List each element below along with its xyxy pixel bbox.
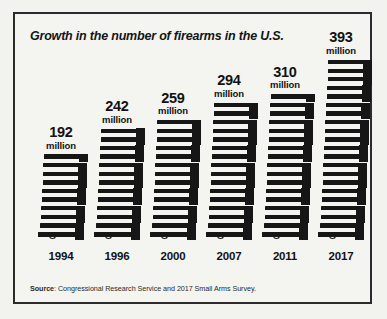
pistol-icon [326,68,372,77]
pistol-icon [99,137,145,146]
value-number: 310 [259,65,311,80]
pistol-icon [320,197,366,206]
gun-stack [262,94,308,240]
pistol-icon [323,128,369,137]
pistol-icon [95,206,141,215]
pistol-icon [41,180,87,189]
pistol-icon [152,188,198,197]
value-number: 294 [203,73,255,88]
pistol-icon [41,163,87,172]
pistol-icon [206,223,252,232]
value-number: 242 [91,99,143,114]
pistol-icon [38,223,84,232]
pistol-icon [266,154,312,163]
pistol-icon [206,231,252,240]
pistol-icon [264,188,310,197]
pistol-icon [265,163,311,172]
pistol-icon [150,231,196,240]
pistol-icon [267,120,313,129]
pistol-icon [266,145,312,154]
pistol-icon [208,188,254,197]
pistol-icon [324,103,370,112]
pistol-icon [326,60,372,69]
pistol-icon [40,197,86,206]
pistol-icon [211,128,257,137]
pistol-icon [96,197,142,206]
pistol-icon [210,154,256,163]
pistol-icon [151,206,197,215]
value-unit: million [91,115,143,125]
value-number: 259 [147,91,199,106]
chart-card: Growth in the number of firearms in the … [13,12,372,304]
pistol-icon [268,103,314,112]
pistol-icon [262,231,308,240]
pistol-icon [97,180,143,189]
source-label: Source [30,284,54,293]
year-label-1996: 1996 [91,250,143,262]
pistol-icon [208,197,254,206]
value-unit: million [147,106,199,116]
pistol-icon [155,120,201,129]
value-number: 192 [35,125,87,140]
pistol-icon [324,111,370,120]
value-label-2000: 259million [147,91,199,116]
value-unit: million [35,141,87,151]
value-number: 393 [315,30,367,45]
pistol-icon [263,206,309,215]
pistol-icon [152,197,198,206]
pistol-icon [207,206,253,215]
pistol-icon [321,171,367,180]
pistol-icon [323,120,369,129]
pistol-icon [212,111,258,120]
pistol-icon [95,214,141,223]
trigger-guard-icon [329,234,336,239]
value-label-2017: 393million [315,30,367,55]
pistol-icon [211,137,257,146]
pistol-icon [207,214,253,223]
pistol-icon [94,231,140,240]
pistol-icon [153,163,199,172]
trigger-guard-icon [105,234,112,239]
pistol-icon [321,163,367,172]
year-label-1994: 1994 [35,250,87,262]
pistol-icon [322,154,368,163]
pistol-icon [155,128,201,137]
pistol-icon [40,188,86,197]
pistol-icon [320,188,366,197]
pistol-icon [265,180,311,189]
trigger-guard-icon [161,234,168,239]
gun-stack [94,128,140,240]
pistol-icon [268,111,314,120]
value-unit: million [259,80,311,90]
value-label-2007: 294million [203,73,255,98]
gun-stack [150,120,196,240]
year-label-2017: 2017 [315,250,367,262]
year-label-2011: 2011 [259,250,311,262]
pistol-icon [209,180,255,189]
pistol-icon [98,145,144,154]
pistol-icon [267,128,313,137]
pistol-icon [322,145,368,154]
year-label-2000: 2000 [147,250,199,262]
gun-stack [318,60,364,240]
pistol-icon [209,163,255,172]
trigger-guard-icon [217,234,224,239]
pistol-icon [39,214,85,223]
pistol-icon [212,103,258,112]
pistol-icon [325,85,371,94]
trigger-guard-icon [273,234,280,239]
pistol-icon [41,171,87,180]
pistol-icon [97,171,143,180]
pistol-icon [318,223,364,232]
pistol-icon [154,154,200,163]
trigger-guard-icon [49,234,56,239]
year-label-2007: 2007 [203,250,255,262]
pistol-icon [319,206,365,215]
pistol-icon [319,214,365,223]
pistol-icon [151,214,197,223]
pistol-icon [263,214,309,223]
pistol-icon [318,231,364,240]
gun-stack [38,154,84,240]
pistol-icon [269,94,315,103]
pistol-icon [153,180,199,189]
